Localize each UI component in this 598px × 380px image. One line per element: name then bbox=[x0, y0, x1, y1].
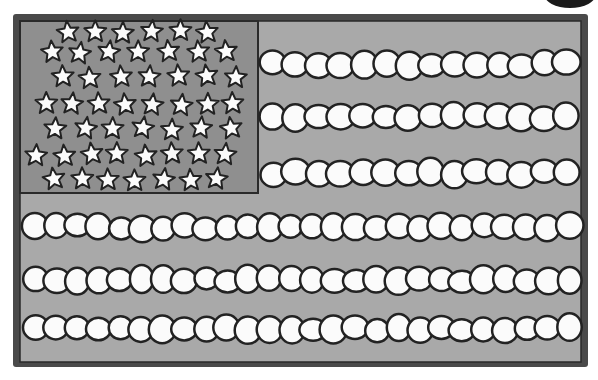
stripe-blob bbox=[450, 216, 474, 241]
stripe-blob bbox=[327, 53, 354, 78]
stripe-blob bbox=[365, 319, 389, 342]
stripe-blob bbox=[171, 269, 197, 293]
corner-blob bbox=[544, 0, 596, 8]
flag-illustration bbox=[0, 0, 598, 380]
stripe-blob bbox=[342, 315, 369, 339]
stripe-blob bbox=[558, 267, 582, 294]
flag-drawing bbox=[0, 0, 598, 380]
stripe-blob bbox=[535, 316, 560, 340]
stripe-blob bbox=[417, 158, 443, 186]
stripe-blob bbox=[556, 212, 583, 239]
stripe-blob bbox=[107, 269, 132, 292]
stripe-blob bbox=[557, 313, 581, 341]
stripe-blob bbox=[257, 265, 281, 290]
stripe-blob bbox=[553, 103, 578, 129]
stripe-blob bbox=[395, 105, 422, 130]
stripe-blob bbox=[554, 160, 580, 185]
stripe-blob bbox=[86, 318, 111, 341]
corner-mark bbox=[544, 0, 596, 8]
stripe-blob bbox=[85, 213, 110, 239]
stripe-blob bbox=[552, 50, 581, 75]
